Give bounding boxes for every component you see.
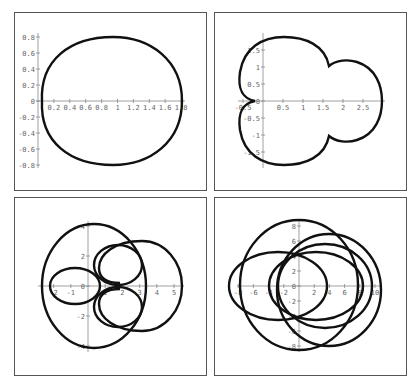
- x-tick-label: 4: [155, 289, 159, 297]
- x-tick-label: 4: [327, 289, 331, 297]
- y-tick-label: -2: [77, 313, 85, 321]
- y-tick-label: 0.4: [22, 66, 35, 74]
- y-tick-label: 0: [256, 98, 260, 106]
- x-tick-label: 1.6: [159, 104, 172, 112]
- plot-top-left: 0.20.40.60.811.21.41.61.80.80.60.40.20-0…: [18, 33, 187, 170]
- x-tick-label: 1: [301, 104, 305, 112]
- y-tick-label: -1: [252, 132, 260, 140]
- y-tick-label: 0.5: [247, 81, 260, 89]
- y-tick-label: 2: [292, 268, 296, 276]
- y-tick-label: 0.8: [22, 34, 35, 42]
- y-tick-label: -0.5: [243, 115, 260, 123]
- x-tick-label: -6: [249, 289, 257, 297]
- plot-bottom-right: -8-6-4-224681086420-2-4-6-8: [229, 219, 382, 352]
- x-tick-label: -2: [280, 289, 288, 297]
- x-tick-label: 0.5: [277, 104, 290, 112]
- y-tick-label: 0: [81, 283, 85, 291]
- y-tick-label: -0.4: [18, 130, 35, 138]
- y-tick-label: -0.6: [18, 146, 35, 154]
- x-tick-label: 2: [120, 289, 124, 297]
- loop-inner-bottom: [94, 287, 142, 327]
- y-tick-label: 1: [256, 64, 260, 72]
- x-tick-label: 0.8: [95, 104, 108, 112]
- y-tick-label: 0.2: [22, 82, 35, 90]
- x-tick-label: 6: [342, 289, 346, 297]
- y-tick-label: -0.2: [18, 114, 35, 122]
- x-tick-label: 1: [115, 104, 119, 112]
- x-tick-label: 2.5: [357, 104, 370, 112]
- loop-inner-top: [94, 245, 142, 285]
- x-tick-label: 5: [172, 289, 176, 297]
- plot-top-right: -0.50.511.522.51.510.50-0.5-1-1.5: [235, 33, 385, 168]
- y-tick-label: 2: [81, 253, 85, 261]
- plot-bottom-left: -2-112345420-2-4: [38, 221, 184, 352]
- y-tick-label: -2: [288, 298, 296, 306]
- x-tick-label: 2: [341, 104, 345, 112]
- y-tick-label: 8: [292, 223, 296, 231]
- y-tick-label: 0.6: [22, 50, 35, 58]
- x-tick-label: 0.4: [63, 104, 76, 112]
- x-tick-label: 1.4: [143, 104, 156, 112]
- plots-canvas: 0.20.40.60.811.21.41.61.80.80.60.40.20-0…: [0, 0, 419, 386]
- y-tick-label: 6: [292, 238, 296, 246]
- x-tick-label: -1: [67, 289, 75, 297]
- x-tick-label: 0.2: [48, 104, 61, 112]
- y-tick-label: 0: [31, 98, 35, 106]
- x-tick-label: 1.5: [317, 104, 330, 112]
- y-tick-label: 0: [292, 283, 296, 291]
- x-tick-label: 2: [312, 289, 316, 297]
- x-tick-label: 0.6: [79, 104, 92, 112]
- x-tick-label: 1.2: [127, 104, 140, 112]
- y-tick-label: -0.8: [18, 162, 35, 170]
